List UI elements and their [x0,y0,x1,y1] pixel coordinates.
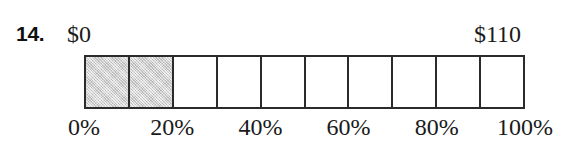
bar-cell-empty [218,57,262,107]
axis-tick-label: 80% [415,112,459,142]
percent-bar-figure: 14. $0 $110 0%20%40%60%80%100% [0,0,575,158]
bar-cell-empty [262,57,306,107]
problem-number: 14. [16,22,44,46]
bar-cell-empty [393,57,437,107]
axis-tick-label: 40% [238,112,282,142]
bar-cell-empty [437,57,481,107]
percent-axis: 0%20%40%60%80%100% [0,112,575,152]
bar-cell-filled [130,57,174,107]
axis-tick-label: 0% [68,112,100,142]
scale-min-label: $0 [67,21,91,47]
scale-max-label: $110 [474,21,521,47]
bar-cell-empty [306,57,350,107]
axis-tick-label: 60% [327,112,371,142]
segmented-bar [84,55,525,109]
bar-cell-empty [174,57,218,107]
axis-tick-label: 100% [497,112,553,142]
axis-tick-label: 20% [150,112,194,142]
bar-cell-empty [349,57,393,107]
bar-cell-empty [481,57,523,107]
bar-cell-filled [86,57,130,107]
